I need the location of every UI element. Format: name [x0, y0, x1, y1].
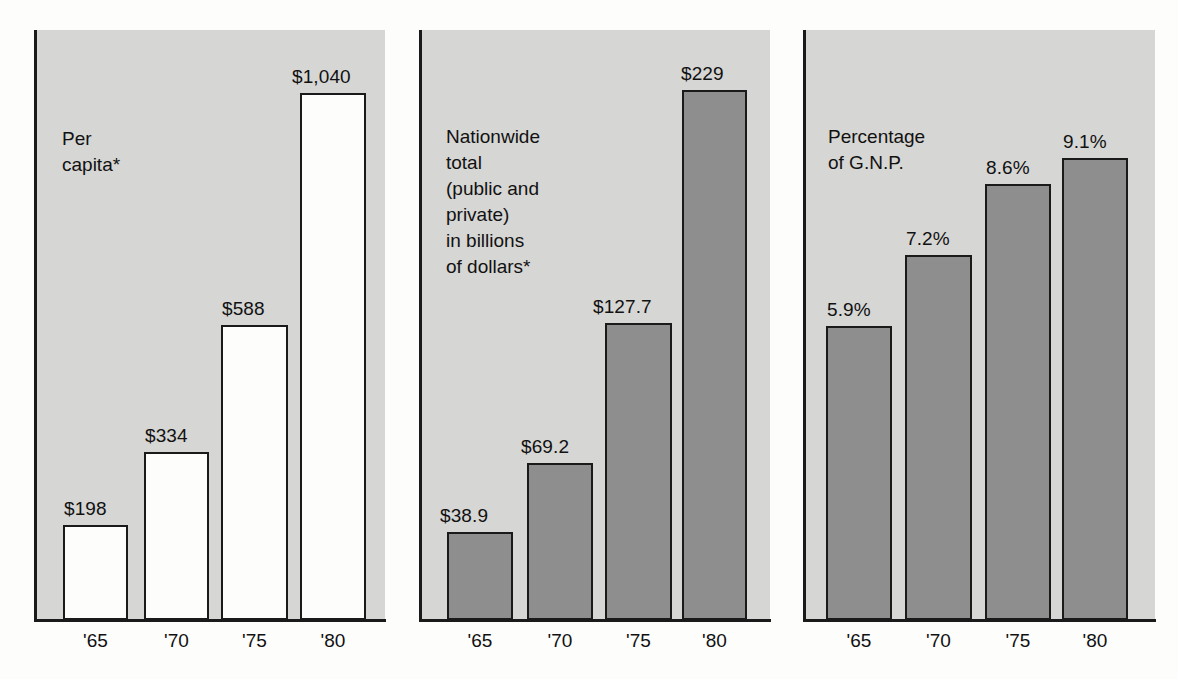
panel-3-y-axis [803, 30, 806, 622]
bar-value-label-nationwide-75: $127.7 [593, 296, 652, 318]
bar-value-label-nationwide-65: $38.9 [440, 505, 488, 527]
bar-gnp-65 [826, 326, 892, 620]
bar-nationwide-70 [527, 463, 593, 620]
panel-2-caption: Nationwide total (public and private) in… [446, 124, 540, 280]
panel-3-caption: Percentage of G.N.P. [828, 124, 925, 176]
bar-nationwide-65 [447, 532, 513, 620]
bar-nationwide-75 [605, 323, 672, 620]
x-tick-per-capita-65: '65 [63, 630, 128, 652]
x-tick-gnp-65: '65 [826, 630, 892, 652]
x-tick-nationwide-70: '70 [527, 630, 593, 652]
bar-value-label-per-capita-75: $588 [222, 298, 265, 320]
x-tick-nationwide-65: '65 [447, 630, 513, 652]
bar-per-capita-75 [221, 325, 288, 620]
bar-value-label-per-capita-80: $1,040 [292, 66, 351, 88]
bar-chart-figure: Per capita* $198 $334 $588 $1,040 '65 '7… [0, 0, 1178, 679]
bar-gnp-80 [1062, 158, 1128, 620]
bar-per-capita-70 [144, 452, 209, 620]
x-tick-nationwide-80: '80 [682, 630, 747, 652]
x-tick-nationwide-75: '75 [605, 630, 672, 652]
panel-2-y-axis [419, 30, 422, 622]
bar-per-capita-80 [300, 93, 366, 620]
bar-value-label-nationwide-70: $69.2 [521, 436, 569, 458]
bar-value-label-per-capita-65: $198 [64, 498, 107, 520]
bar-value-label-nationwide-80: $229 [681, 63, 724, 85]
x-tick-gnp-75: '75 [985, 630, 1051, 652]
panel-1-y-axis [34, 30, 37, 622]
bar-value-label-gnp-70: 7.2% [906, 228, 950, 250]
bar-gnp-70 [905, 255, 972, 620]
x-tick-gnp-70: '70 [905, 630, 972, 652]
bar-nationwide-80 [682, 90, 747, 620]
x-tick-per-capita-75: '75 [221, 630, 288, 652]
x-tick-per-capita-80: '80 [300, 630, 366, 652]
bar-value-label-gnp-75: 8.6% [986, 157, 1030, 179]
bar-value-label-per-capita-70: $334 [145, 425, 188, 447]
x-tick-gnp-80: '80 [1062, 630, 1128, 652]
bar-per-capita-65 [63, 525, 128, 620]
x-tick-per-capita-70: '70 [144, 630, 209, 652]
bar-value-label-gnp-80: 9.1% [1063, 131, 1107, 153]
bar-gnp-75 [985, 184, 1051, 620]
bar-value-label-gnp-65: 5.9% [827, 299, 871, 321]
panel-1-caption: Per capita* [62, 126, 120, 178]
